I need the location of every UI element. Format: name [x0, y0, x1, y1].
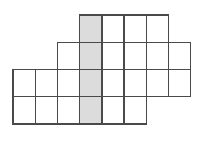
grid-cell: [168, 42, 190, 69]
grid-cell: [102, 97, 124, 124]
grid-cell: [102, 42, 124, 69]
grid-cell: [146, 69, 168, 96]
grid-cell: [102, 15, 124, 42]
grid-cell: [124, 42, 146, 69]
grid-cell: [102, 69, 124, 96]
shaded-cell: [80, 15, 102, 42]
polyomino-figure: [0, 0, 211, 158]
grid-cell: [57, 97, 79, 124]
grid-cell: [13, 97, 35, 124]
shaded-cell: [80, 42, 102, 69]
grid-cell: [13, 69, 35, 96]
shaded-cell: [80, 69, 102, 96]
grid-cell: [57, 42, 79, 69]
shaded-cell: [80, 97, 102, 124]
grid-cell: [146, 42, 168, 69]
grid-svg: [0, 0, 211, 158]
grid-cell: [57, 69, 79, 96]
grid-cell: [168, 69, 190, 96]
grid-cell: [124, 97, 146, 124]
grid-cell: [124, 15, 146, 42]
grid-cell: [35, 69, 57, 96]
grid-cell: [35, 97, 57, 124]
grid-cell: [124, 69, 146, 96]
grid-cell: [146, 15, 168, 42]
